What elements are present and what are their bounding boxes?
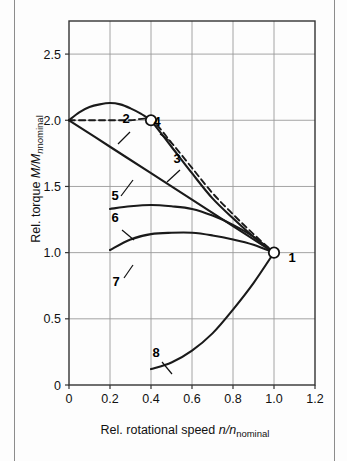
y-tick-label: 2.5 [44,48,61,62]
point-1-marker [269,247,279,257]
data-curves [69,103,274,369]
curve-number-labels: 12345678 [111,111,295,360]
x-axis-label-prefix: Rel. rotational speed [101,423,219,437]
curve-label-7: 7 [112,274,119,289]
curve-8 [151,253,274,369]
y-tick-label: 0.5 [44,312,61,326]
x-axis-label-symbol: n/n [219,423,236,437]
y-axis-label-subscript: nominal [34,115,45,148]
y-axis-label-sub-italic: n [34,149,45,154]
x-tick-label: 0.6 [183,392,200,406]
x-tick-label: 0.2 [101,392,118,406]
x-tick-label: 0.4 [142,392,159,406]
curve-label-5: 5 [111,188,118,203]
chart-canvas: 00.20.40.60.81.01.200.51.01.52.02.5 1234… [0,0,347,461]
y-axis-label: Rel. torque M/Mnnominal [26,64,44,294]
x-tick-label: 1.2 [306,392,323,406]
curve-label-1: 1 [288,250,295,265]
curve-label-4: 4 [153,114,161,129]
curve-label-8: 8 [152,345,159,360]
x-tick-label: 0 [66,392,73,406]
y-tick-label: 2.0 [44,114,61,128]
grid-lines [69,21,315,385]
x-axis-label: Rel. rotational speed n/nnominal [40,420,330,438]
x-tick-label: 0.8 [224,392,241,406]
y-tick-label: 1.0 [44,246,61,260]
x-axis-label-subscript: nominal [236,428,269,439]
curve-label-2: 2 [122,111,129,126]
y-axis-label-symbol: M/M [29,154,43,178]
figure-panel: 00.20.40.60.81.01.200.51.01.52.02.5 1234… [0,0,347,461]
curve-label-3: 3 [173,151,180,166]
x-tick-label: 1.0 [265,392,282,406]
y-tick-label: 0 [54,379,61,393]
curve-label-6: 6 [111,210,118,225]
y-tick-label: 1.5 [44,180,61,194]
tick-labels: 00.20.40.60.81.01.200.51.01.52.02.5 [44,48,324,406]
y-axis-label-prefix: Rel. torque [29,178,43,243]
